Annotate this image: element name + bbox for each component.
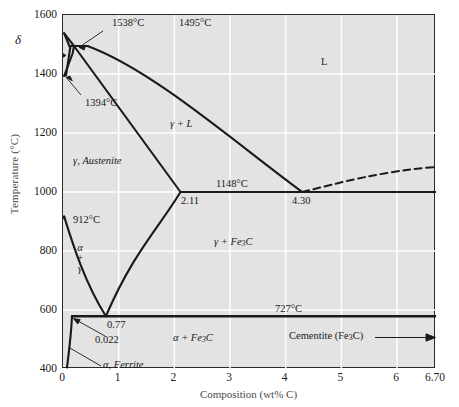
gamma-solidus [74, 46, 181, 192]
alpha-solvus [67, 316, 72, 367]
label-alpha-ferrite: α, Ferrite [103, 359, 144, 370]
label-1495C: 1495°C [179, 17, 211, 28]
y-axis-title: Temperature (°C) [8, 114, 20, 234]
label-cementite-text: Cementite (Fe [289, 330, 349, 341]
phase-diagram-svg [63, 15, 436, 369]
x-tick-3: 3 [226, 371, 232, 383]
x-tick-6: 6 [393, 371, 399, 383]
label-delta: δ [15, 33, 21, 47]
y-tick-1400: 1400 [34, 67, 57, 79]
liquidus-dashed [302, 167, 435, 192]
label-0.77: 0.77 [107, 319, 125, 330]
cementite-arrowhead [426, 334, 436, 341]
label-gamma-plus-fe3c-text: γ + Fe [214, 236, 242, 247]
y-tick-1000: 1000 [34, 185, 57, 197]
label-alpha-plus-fe3c: α + Fe3C [173, 332, 213, 345]
x-axis-tick-labels: 01234566.70 [62, 371, 435, 387]
x-tick-5: 5 [337, 371, 343, 383]
label-4.30: 4.30 [292, 195, 310, 206]
t1394-arrowhead [66, 76, 72, 81]
c0022-arrowhead [74, 319, 81, 325]
alpha-ferrite-leader [69, 348, 101, 367]
x-tick-2: 2 [170, 371, 176, 383]
label-alpha-plus-fe3c-text: α + Fe [173, 332, 202, 343]
x-tick-0: 0 [59, 371, 65, 383]
label-2.11: 2.11 [181, 195, 199, 206]
phase-diagram-figure: 4006008001000120014001600 Temperature (°… [0, 0, 459, 407]
x-tick-4: 4 [282, 371, 288, 383]
liquidus [88, 46, 303, 192]
y-tick-400: 400 [40, 362, 57, 374]
label-alpha-plus-gamma-gamma: γ [74, 264, 86, 274]
label-gamma-austenite: γ, Austenite [73, 155, 121, 166]
y-tick-800: 800 [40, 244, 57, 256]
x-axis-title: Composition (wt% C) [62, 388, 435, 400]
label-cementite: Cementite (Fe3C) [289, 330, 363, 343]
label-gamma-plus-fe3c: γ + Fe3C [214, 236, 252, 249]
y-tick-1200: 1200 [34, 126, 57, 138]
x-tick-1: 1 [115, 371, 121, 383]
label-alpha-plus-gamma: α + γ [74, 243, 86, 274]
delta-leader [63, 42, 66, 56]
t1394-leader [66, 78, 81, 96]
y-tick-600: 600 [40, 303, 57, 315]
label-gamma-fe3c-suffix: C [245, 236, 252, 247]
y-tick-1600: 1600 [34, 8, 57, 20]
label-1394C: 1394°C [85, 97, 117, 108]
label-liquid: L [321, 56, 327, 67]
phase-boundaries [64, 33, 436, 367]
label-gamma-plus-liquid: γ + L [170, 118, 192, 129]
peritectic-leader [79, 31, 103, 47]
x-tick-6.70: 6.70 [425, 371, 445, 383]
label-1148C: 1148°C [216, 178, 248, 189]
label-0.022: 0.022 [95, 334, 119, 345]
plot-area: 1538°C 1495°C δ 1394°C L γ + L 1148°C 2.… [62, 14, 435, 368]
label-912C: 912°C [73, 214, 100, 225]
acm-solvus [106, 192, 181, 316]
label-727C: 727°C [275, 303, 302, 314]
label-cementite-suffix: C) [353, 330, 364, 341]
label-1538C: 1538°C [112, 17, 144, 28]
label-alpha-fe3c-suffix: C [206, 332, 213, 343]
